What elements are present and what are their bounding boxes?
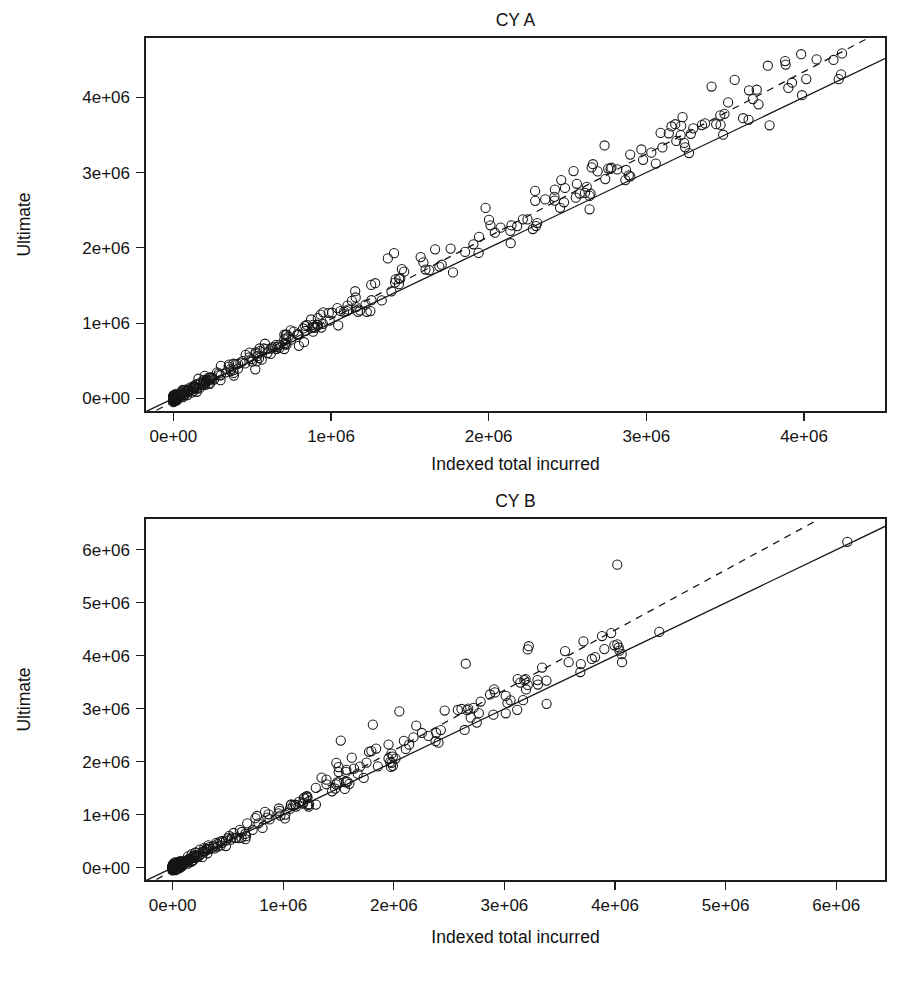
- y-axis-title: Ultimate: [14, 667, 34, 731]
- data-point: [383, 254, 392, 263]
- data-point: [351, 287, 360, 296]
- data-point: [541, 195, 550, 204]
- plot-area: [145, 39, 886, 417]
- data-point: [564, 658, 573, 667]
- x-tick-label: 1e+06: [259, 896, 307, 915]
- data-point: [748, 95, 757, 104]
- data-point: [395, 707, 404, 716]
- data-point: [513, 705, 522, 714]
- chart-panel-cy-a: CY A0e+001e+062e+063e+064e+060e+001e+062…: [0, 0, 922, 492]
- y-axis-title: Ultimate: [14, 192, 34, 256]
- data-point: [765, 121, 774, 130]
- data-point: [569, 166, 578, 175]
- data-point: [243, 819, 252, 828]
- x-tick-label: 1e+06: [307, 427, 355, 446]
- data-point: [542, 699, 551, 708]
- data-point: [531, 196, 540, 205]
- data-point: [600, 141, 609, 150]
- identity-line: [145, 526, 886, 881]
- x-axis-title: Indexed total incurred: [431, 454, 599, 474]
- x-tick-label: 0e+00: [150, 427, 198, 446]
- data-point: [336, 736, 345, 745]
- data-point: [707, 82, 716, 91]
- x-axis-title: Indexed total incurred: [431, 927, 599, 947]
- panel-title: CY B: [495, 491, 536, 511]
- data-point: [802, 75, 811, 84]
- x-tick-label: 2e+06: [370, 896, 418, 915]
- data-point: [797, 50, 806, 59]
- data-point: [754, 100, 763, 109]
- data-point: [613, 560, 622, 569]
- scatter-figure: CY A0e+001e+062e+063e+064e+060e+001e+062…: [0, 0, 922, 983]
- data-point: [550, 185, 559, 194]
- data-point: [440, 706, 449, 715]
- data-point: [448, 268, 457, 277]
- plot-area: [145, 520, 886, 886]
- data-point: [319, 308, 328, 317]
- data-point: [334, 321, 343, 330]
- data-point: [572, 179, 581, 188]
- data-point: [409, 733, 418, 742]
- data-point: [557, 175, 566, 184]
- data-point: [400, 267, 409, 276]
- data-point: [347, 753, 356, 762]
- data-point: [626, 150, 635, 159]
- data-point: [474, 709, 483, 718]
- data-point: [600, 644, 609, 653]
- data-point: [730, 75, 739, 84]
- y-tick-label: 2e+06: [82, 753, 130, 772]
- data-point: [613, 165, 622, 174]
- data-point: [724, 98, 733, 107]
- chart-panel-cy-b: CY B0e+001e+062e+063e+064e+065e+066e+060…: [0, 481, 922, 983]
- identity-line: [145, 58, 886, 412]
- data-point: [638, 155, 647, 164]
- panel-title: CY A: [496, 10, 536, 30]
- data-point: [496, 223, 505, 232]
- data-point: [677, 121, 686, 130]
- data-point: [368, 720, 377, 729]
- x-tick-label: 6e+06: [812, 896, 860, 915]
- data-point: [461, 659, 470, 668]
- x-tick-label: 2e+06: [465, 427, 513, 446]
- data-point: [763, 61, 772, 70]
- data-point: [384, 740, 393, 749]
- data-point: [390, 249, 399, 258]
- y-tick-label: 0e+00: [82, 389, 130, 408]
- scatter-plot-cy-a: CY A0e+001e+062e+063e+064e+060e+001e+062…: [0, 0, 922, 492]
- data-point: [446, 244, 455, 253]
- scatter-plot-cy-b: CY B0e+001e+062e+063e+064e+065e+066e+060…: [0, 481, 922, 983]
- data-point: [430, 245, 439, 254]
- data-point: [560, 646, 569, 655]
- x-tick-label: 3e+06: [481, 896, 529, 915]
- x-tick-label: 4e+06: [780, 427, 828, 446]
- y-tick-label: 5e+06: [82, 594, 130, 613]
- data-point: [812, 55, 821, 64]
- data-point: [523, 645, 532, 654]
- data-point: [506, 239, 515, 248]
- data-point: [829, 55, 838, 64]
- data-point: [397, 265, 406, 274]
- data-point: [579, 637, 588, 646]
- data-point: [587, 654, 596, 663]
- data-point: [542, 676, 551, 685]
- data-point: [739, 114, 748, 123]
- data-point: [637, 145, 646, 154]
- y-tick-label: 2e+06: [82, 239, 130, 258]
- data-point: [484, 215, 493, 224]
- y-tick-label: 3e+06: [82, 700, 130, 719]
- x-tick-label: 0e+00: [149, 896, 197, 915]
- x-tick-label: 4e+06: [591, 896, 639, 915]
- data-point: [507, 221, 516, 230]
- y-tick-label: 1e+06: [82, 314, 130, 333]
- y-tick-label: 1e+06: [82, 806, 130, 825]
- data-point: [601, 174, 610, 183]
- y-tick-label: 3e+06: [82, 164, 130, 183]
- data-point: [461, 247, 470, 256]
- data-point: [585, 205, 594, 214]
- data-point: [481, 203, 490, 212]
- data-point: [678, 113, 687, 122]
- y-tick-label: 4e+06: [82, 647, 130, 666]
- y-tick-label: 4e+06: [82, 88, 130, 107]
- y-tick-label: 0e+00: [82, 859, 130, 878]
- y-tick-label: 6e+06: [82, 541, 130, 560]
